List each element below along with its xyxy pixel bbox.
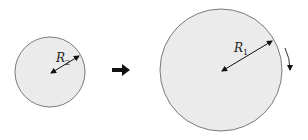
- right-arrow-icon: [112, 64, 130, 76]
- large-disk: R1: [160, 9, 282, 131]
- small-disk: R2: [15, 37, 85, 107]
- diagram-canvas: R2 R1: [0, 0, 308, 140]
- clockwise-rotation-arrow-icon: [285, 48, 290, 70]
